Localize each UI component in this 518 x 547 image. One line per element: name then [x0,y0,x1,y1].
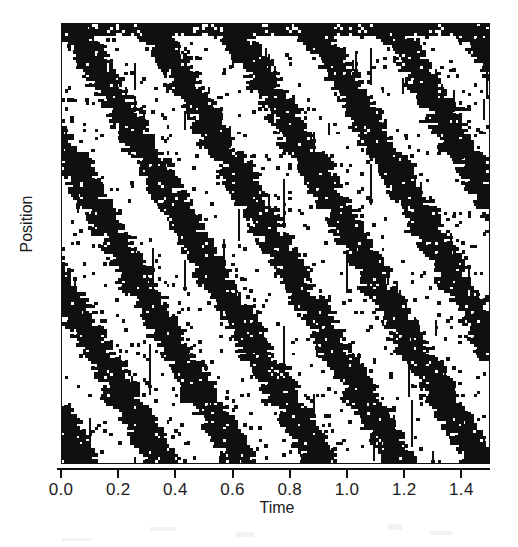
x-axis-tick [460,470,462,478]
scan-artifact [62,538,92,541]
scan-artifact [150,527,176,531]
x-axis-tick [232,470,234,478]
scan-artifact [388,524,402,530]
x-axis-title: Time [0,499,518,517]
x-axis-tick-label: 1.4 [431,480,491,500]
x-axis-tick [346,470,348,478]
x-axis-tick [117,470,119,478]
x-axis-tick [289,470,291,478]
x-axis-line [57,468,490,470]
x-axis-tick-label: 0.0 [31,480,91,500]
raster-heatmap [62,24,489,463]
scan-artifact [236,532,254,537]
x-axis-tick [174,470,176,478]
y-axis-title: Position [18,164,36,284]
x-axis-tick-label: 0.2 [88,480,148,500]
figure-container: 0.00.20.40.60.81.01.21.4 Time Position [0,0,518,547]
scan-artifact [430,531,452,535]
x-axis-tick [403,470,405,478]
x-axis-tick [60,470,62,478]
x-axis-tick-label: 0.8 [260,480,320,500]
x-axis-tick-label: 0.6 [203,480,263,500]
x-axis-tick-label: 0.4 [145,480,205,500]
plot-area [61,23,490,464]
x-axis-title-text: Time [260,499,295,516]
x-axis-tick-label: 1.2 [374,480,434,500]
x-axis-tick-label: 1.0 [317,480,377,500]
